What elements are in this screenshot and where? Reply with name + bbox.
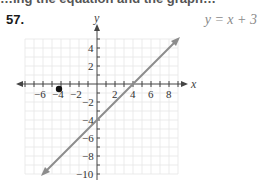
y-tick-label: 2 [88,60,94,72]
y-tick-label: −8 [82,150,94,162]
x-tick-label: 6 [148,88,154,100]
y-axis-label: y [93,11,100,25]
plotted-point [56,86,62,92]
x-tick-label: 4 [130,88,136,100]
x-tick-label: −2 [70,88,82,100]
x-axis-left-arrow-icon [16,81,23,87]
x-axis-label: x [190,77,197,91]
y-axis-up-arrow-icon [94,24,100,31]
x-axis [16,81,188,87]
y-tick-label: −10 [76,168,94,180]
x-tick-labels: −6 −4 −2 2 4 6 8 [34,88,172,100]
x-axis-right-arrow-icon [181,81,188,87]
grid [25,39,178,174]
graphed-line [41,37,180,176]
x-tick-label: 8 [166,88,172,100]
coordinate-graph: x y −6 −4 −2 2 4 6 8 4 2 −2 −4 −6 −8 −10 [0,0,263,184]
x-tick-label: 2 [112,88,118,100]
x-tick-label: −6 [34,88,46,100]
y-tick-label: 4 [88,42,94,54]
y-tick-label: −2 [82,96,94,108]
